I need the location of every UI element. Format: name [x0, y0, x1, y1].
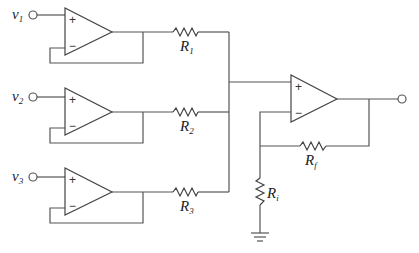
resistor-r3 [173, 188, 198, 196]
input-terminal-v3 [29, 173, 37, 181]
resistor-r1 [173, 28, 198, 36]
label-rf: Rf [304, 152, 318, 170]
resistor-ri [256, 178, 264, 205]
minus-sign: − [69, 119, 76, 133]
minus-sign: − [69, 199, 76, 213]
label-v2: v2 [12, 88, 24, 106]
minus-sign: − [69, 39, 76, 53]
buffer-stage-1: + − R1 v1 [12, 6, 229, 63]
plus-sign: + [69, 173, 76, 187]
label-r2: R2 [179, 118, 194, 136]
plus-sign: + [69, 13, 76, 27]
resistor-rf [300, 142, 326, 150]
resistor-r2 [173, 108, 198, 116]
input-terminal-v2 [29, 93, 37, 101]
label-ri: Ri [266, 185, 279, 203]
minus-sign: − [295, 106, 302, 120]
output-terminal [398, 95, 406, 103]
label-r1: R1 [179, 38, 194, 56]
buffer-stage-2: + − R2 v2 [12, 88, 229, 143]
plus-sign: + [295, 80, 302, 94]
ground-icon [251, 233, 269, 241]
plus-sign: + [69, 93, 76, 107]
label-v3: v3 [12, 168, 24, 186]
buffer-stage-3: + − R3 v3 [12, 168, 229, 223]
output-amplifier-stage: + − Rf Ri [251, 75, 406, 241]
input-terminal-v1 [29, 11, 37, 19]
circuit-diagram: + − R1 v1 + − R2 v2 + − R3 v3 [0, 0, 419, 253]
label-r3: R3 [179, 198, 194, 216]
label-v1: v1 [12, 6, 23, 24]
